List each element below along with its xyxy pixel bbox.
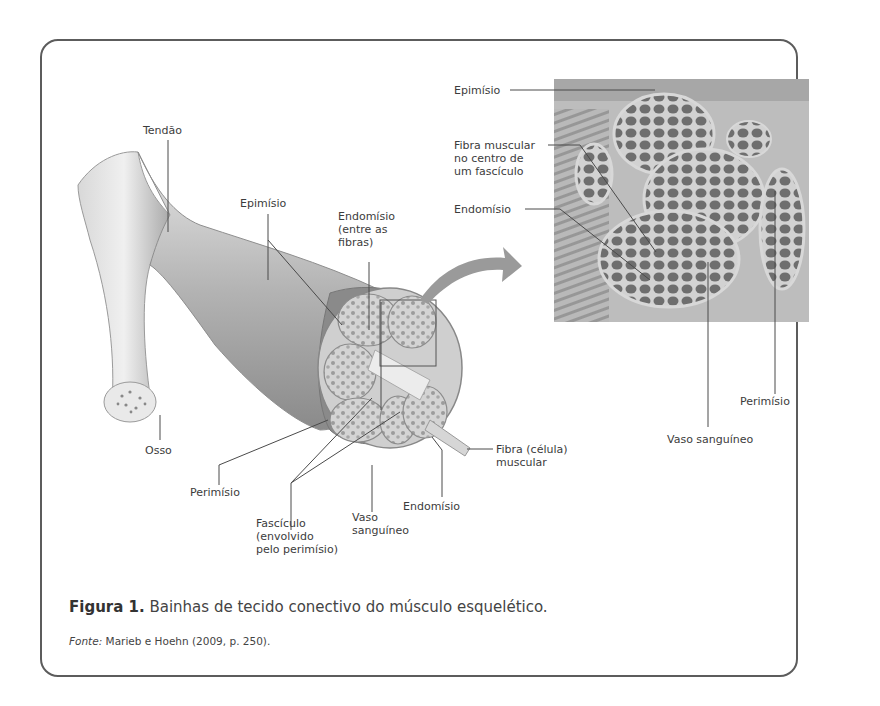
caption-prefix: Figura 1. [69,598,145,616]
label-epimisio: Epimísio [240,197,286,210]
label-tendao: Tendão [143,124,182,137]
label-fibra: Fibra (célula) muscular [496,443,568,469]
label-endomisio-bottom: Endomísio [403,500,460,513]
caption-text: Bainhas de tecido conectivo do músculo e… [145,598,548,616]
source-text: Marieb e Hoehn (2009, p. 250). [102,635,270,647]
source-prefix: Fonte: [69,635,102,647]
figure-caption: Figura 1. Bainhas de tecido conectivo do… [69,598,548,616]
label-fasciculo: Fascículo (envolvido pelo perimísio) [256,517,338,556]
label-endomisio-top: Endomísio (entre as fibras) [338,210,395,249]
label-vaso: Vaso sanguíneo [352,511,409,537]
label-osso: Osso [145,444,172,457]
micro-label-perimisio: Perimísio [740,395,790,408]
micro-label-fibra-centro: Fibra muscular no centro de um fascículo [454,139,535,178]
figure-source: Fonte: Marieb e Hoehn (2009, p. 250). [69,635,270,647]
micro-label-epimisio: Epimísio [454,84,500,97]
micro-label-endomisio: Endomísio [454,203,511,216]
micro-label-vaso: Vaso sanguíneo [667,433,753,446]
label-perimisio: Perimísio [190,486,240,499]
